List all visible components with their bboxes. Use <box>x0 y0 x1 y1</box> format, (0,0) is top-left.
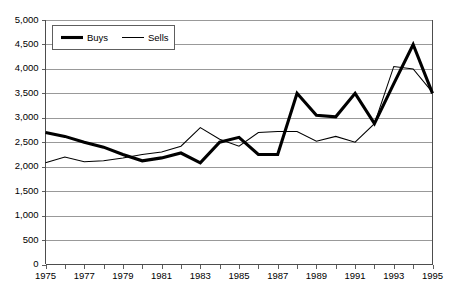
legend-label-buys: Buys <box>87 32 108 43</box>
x-axis-tick-label: 1983 <box>190 270 211 281</box>
y-axis-tick-label: 4,500 <box>15 38 39 49</box>
gridlines <box>42 21 433 266</box>
x-axis-tick-label: 1993 <box>383 270 404 281</box>
y-axis-tick-label: 1,000 <box>15 209 39 220</box>
y-axis-tick-label: 3,500 <box>15 87 39 98</box>
chart-canvas: 05001,0001,5002,0002,5003,0003,5004,0004… <box>0 0 468 299</box>
series-line-buys <box>46 44 433 162</box>
x-axis-tick-label: 1985 <box>228 270 249 281</box>
x-axis-tick-label: 1979 <box>112 270 133 281</box>
y-axis-tick-label: 1,500 <box>15 185 39 196</box>
x-axis-tick-labels: 1975197719791981198319851987198919911993… <box>35 270 443 281</box>
y-axis-tick-label: 4,000 <box>15 62 39 73</box>
y-axis-tick-label: 2,000 <box>15 160 39 171</box>
x-axis-tick-label: 1975 <box>35 270 56 281</box>
x-axis-tick-label: 1987 <box>267 270 288 281</box>
x-axis-tickmarks <box>47 265 434 269</box>
x-axis-tick-label: 1995 <box>422 270 443 281</box>
legend: Buys Sells <box>53 26 175 50</box>
y-axis-tick-label: 2,500 <box>15 136 39 147</box>
x-axis-tick-label: 1981 <box>151 270 172 281</box>
x-axis-tick-label: 1977 <box>74 270 95 281</box>
line-chart: 05001,0001,5002,0002,5003,0003,5004,0004… <box>0 0 468 299</box>
x-axis-tick-label: 1989 <box>306 270 327 281</box>
y-axis-tick-label: 0 <box>33 258 38 269</box>
y-axis-tick-label: 500 <box>23 234 39 245</box>
y-axis-tick-label: 5,000 <box>15 14 39 25</box>
y-axis-tick-label: 3,000 <box>15 111 39 122</box>
legend-label-sells: Sells <box>148 32 169 43</box>
x-axis-tick-label: 1991 <box>345 270 366 281</box>
y-axis-tick-labels: 05001,0001,5002,0002,5003,0003,5004,0004… <box>15 14 39 270</box>
